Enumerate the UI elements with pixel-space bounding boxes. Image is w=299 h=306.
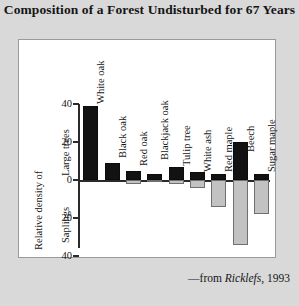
species-label: Blackjack oak [159,100,170,160]
y-axis-tick-label: 40 [44,251,72,261]
species-label: Beech [245,126,256,152]
bar-saplings [211,180,226,207]
bar-saplings [254,180,269,214]
source-attribution: —from Ricklefs, 1993 [0,272,290,284]
credit-source: Ricklefs [225,272,261,284]
y-axis-tick-label: 0 [44,175,72,185]
bar-saplings [233,180,248,245]
bar-large-trees [105,163,120,180]
credit-prefix: —from [188,272,225,284]
bar-saplings [147,180,162,182]
axis-group-label-saplings: Saplings [60,207,71,243]
bar-saplings [190,180,205,188]
species-label: Black oak [117,116,128,158]
bar-large-trees [190,172,205,180]
y-axis-label: Relative density of [33,171,44,250]
species-label: White oak [95,61,106,104]
bar-saplings [169,180,184,184]
bar-saplings [126,180,141,184]
species-label: Sugar maple [266,119,277,172]
species-label: Tulip tree [181,125,192,166]
y-axis-tick-label: 40 [44,99,72,109]
bar-large-trees [126,171,141,181]
y-axis-tick [73,255,79,256]
bar-large-trees [169,167,184,180]
species-label: Red oak [138,131,149,166]
axis-group-label-large-trees: Large trees [60,129,71,176]
species-label: White ash [202,130,213,172]
bar-large-trees [83,106,98,180]
figure: Composition of a Forest Undisturbed for … [0,0,299,306]
credit-suffix: , 1993 [261,272,290,284]
